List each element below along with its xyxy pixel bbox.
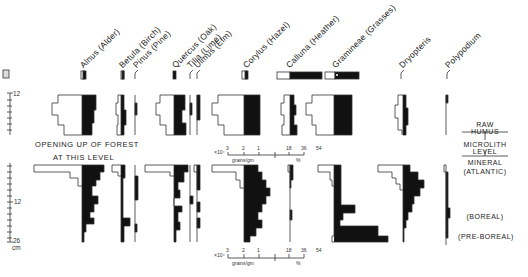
lower-scale-pct-18: 18: [286, 247, 292, 253]
zone-pre-boreal: (PRE-BOREAL): [453, 233, 519, 240]
lower-depth-26: 26: [13, 237, 20, 244]
forest-annotation-line2: AT THIS LEVEL: [53, 153, 114, 162]
zone-boreal: (BOREAL): [460, 213, 510, 220]
upper-scale-multiplier: ×10⁴: [214, 149, 225, 155]
upper-scale-pct-18: 18: [286, 145, 292, 151]
zone-raw: RAW: [470, 121, 500, 128]
zone-mineral: MINERAL: [460, 159, 510, 166]
lower-scale-pct-54: 54: [316, 247, 322, 253]
upper-scale-pct-54: 54: [316, 145, 322, 151]
lower-scale-pct-unit: %: [296, 260, 300, 266]
forest-annotation-line1: OPENING UP OF FOREST: [35, 140, 139, 149]
upper-profiles: [52, 95, 448, 135]
lower-depth-12: 12: [14, 198, 21, 205]
upper-scale-pct-36: 36: [301, 145, 307, 151]
zone-level: LEVEL: [465, 148, 505, 155]
upper-scale-tick-2: 2: [242, 145, 245, 151]
zone-atlantic: (ATLANTIC): [458, 168, 512, 175]
lower-scale-unit: grains/gm: [232, 260, 254, 266]
lower-scale-tick-1: 1: [257, 247, 260, 253]
upper-scale-unit: grains/gm: [232, 157, 254, 163]
lower-scale-tick-3: 3: [226, 247, 229, 253]
depth-unit: cm: [12, 244, 21, 251]
lower-scale-tick-2: 2: [242, 247, 245, 253]
upper-scale-tick-3: 3: [226, 145, 229, 151]
lower-scale-pct-36: 36: [301, 247, 307, 253]
upper-scale-tick-1: 1: [257, 145, 260, 151]
upper-depth-12: 12: [13, 90, 20, 97]
upper-depth-axis: [7, 93, 13, 135]
zone-microlith: MICROLITH: [460, 141, 510, 148]
lower-depth-axis: [7, 163, 13, 242]
legend-bars: [3, 70, 450, 79]
lower-profiles: [34, 165, 450, 245]
upper-scale-pct-unit: %: [296, 157, 300, 163]
zone-humus: HUMUS: [465, 128, 505, 135]
lower-scale-multiplier: ×10⁴: [214, 252, 225, 258]
